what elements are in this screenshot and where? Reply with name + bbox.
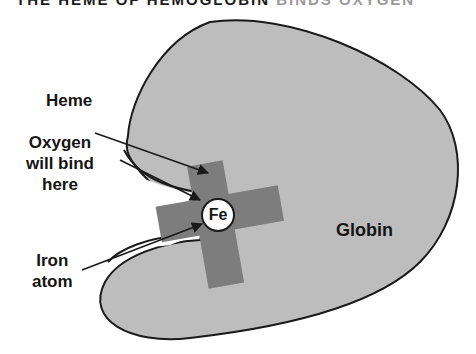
oxygen-label-line1: Oxygen <box>26 132 94 153</box>
oxygen-label-line2: will bind <box>26 153 94 174</box>
iron-label-line2: atom <box>32 271 73 292</box>
heme-label: Heme <box>46 90 92 111</box>
globin-label: Globin <box>336 220 393 241</box>
oxygen-label: Oxygen will bind here <box>26 132 94 195</box>
oxygen-label-line3: here <box>26 174 94 195</box>
fe-label: Fe <box>204 204 232 225</box>
iron-label-line1: Iron <box>32 250 73 271</box>
iron-label: Iron atom <box>32 250 73 292</box>
